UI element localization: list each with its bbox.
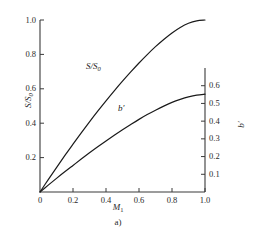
right-tick-label: 0.1 [209,170,237,179]
curve-label-s-sub: 0 [98,65,101,72]
x-axis-title-sub: 1 [120,206,123,213]
right-axis-ticks [201,86,205,175]
left-axis-title-sub: 0 [27,93,34,96]
x-tick-label: 0 [26,196,54,205]
figure-caption: a) [98,218,138,227]
x-tick-label: 0.8 [158,196,186,205]
curve-label-b-prime: b′ [118,104,124,113]
x-axis-title-text: M [113,202,121,212]
right-tick-label: 0.2 [209,152,237,161]
right-tick-label: 0.6 [209,81,237,90]
x-axis-ticks [73,188,205,192]
left-tick-label: 1.0 [8,16,36,25]
x-tick-label: 1.0 [191,196,219,205]
right-tick-label: 0.4 [209,117,237,126]
curve-label-s-text: S/S [86,61,98,71]
right-axis-title-text: b′ [236,121,246,127]
x-tick-label: 0.2 [59,196,87,205]
left-axis-title: S/S0 [24,81,33,121]
left-tick-label: 0.8 [8,50,36,59]
right-tick-label: 0.5 [209,99,237,108]
x-axis-title: M1 [98,203,138,212]
curve-label-s-over-s0: S/S0 [86,62,101,71]
right-tick-label: 0.3 [209,134,237,143]
left-tick-label: 0.2 [8,153,36,162]
left-axis-ticks [40,20,44,158]
left-axis-title-text: S/S [23,96,33,108]
right-axis-title: b′ [237,112,246,138]
